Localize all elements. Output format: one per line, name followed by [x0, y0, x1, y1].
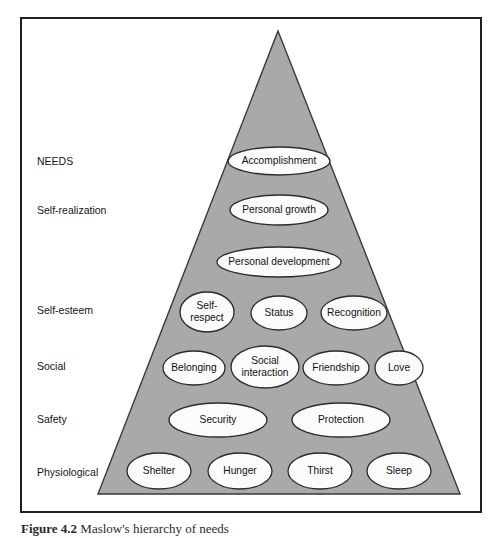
bubble-accomplishment[interactable]: Accomplishment	[228, 147, 330, 175]
bubble-belonging[interactable]: Belonging	[163, 351, 225, 385]
bubble-shelter[interactable]: Shelter	[127, 453, 191, 489]
bubble-self-respect[interactable]: Self- respect	[180, 292, 234, 332]
bubble-protection-label: Protection	[318, 414, 364, 425]
bubble-hunger-label: Hunger	[223, 465, 257, 476]
bubble-security-label: Security	[200, 414, 238, 425]
bubble-friendship-label: Friendship	[312, 362, 360, 373]
bubble-thirst[interactable]: Thirst	[288, 453, 352, 489]
figure-caption: Figure 4.2 Maslow's hierarchy of needs	[21, 521, 229, 537]
stage-label-self-esteem: Self-esteem	[37, 304, 93, 316]
bubble-status[interactable]: Status	[251, 296, 307, 330]
bubble-accomplishment-label: Accomplishment	[242, 155, 317, 166]
bubble-recognition[interactable]: Recognition	[321, 296, 387, 330]
stage-label-self-realization: Self-realization	[37, 204, 106, 216]
bubble-personal-growth-label: Personal growth	[242, 204, 316, 215]
bubble-personal-development-label: Personal development	[228, 256, 330, 267]
figure-caption-number: Figure 4.2	[21, 521, 77, 536]
bubble-social-interaction-label-line2: interaction	[241, 367, 288, 378]
bubble-hunger[interactable]: Hunger	[208, 453, 272, 489]
figure-caption-text: Maslow's hierarchy of needs	[80, 521, 229, 536]
bubble-sleep[interactable]: Sleep	[367, 453, 431, 489]
stage-label-safety: Safety	[37, 413, 67, 425]
bubble-thirst-label: Thirst	[307, 465, 333, 476]
stage-label-social: Social	[37, 360, 66, 372]
bubble-sleep-label: Sleep	[386, 465, 412, 476]
bubble-belonging-label: Belonging	[171, 362, 217, 373]
bubble-social-interaction-label-line1: Social	[251, 355, 279, 366]
bubble-protection[interactable]: Protection	[292, 403, 390, 437]
bubble-love[interactable]: Love	[375, 351, 423, 385]
bubble-status-label: Status	[265, 307, 294, 318]
bubble-security[interactable]: Security	[169, 403, 267, 437]
stage-label-physiological: Physiological	[37, 466, 98, 478]
bubble-personal-development[interactable]: Personal development	[217, 247, 341, 277]
bubble-shelter-label: Shelter	[143, 465, 176, 476]
bubble-recognition-label: Recognition	[327, 307, 381, 318]
bubble-social-interaction[interactable]: Social interaction	[231, 346, 299, 388]
bubble-friendship[interactable]: Friendship	[303, 351, 369, 385]
stage-label-needs: NEEDS	[37, 155, 73, 167]
bubble-self-respect-label-line2: respect	[190, 312, 224, 323]
bubble-self-respect-label-line1: Self-	[197, 300, 218, 311]
bubble-love-label: Love	[388, 362, 410, 373]
bubble-personal-growth[interactable]: Personal growth	[230, 195, 328, 225]
